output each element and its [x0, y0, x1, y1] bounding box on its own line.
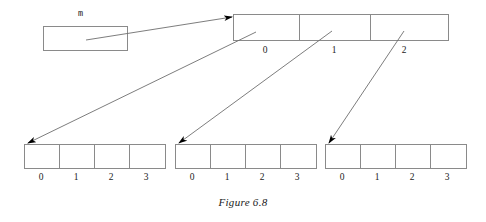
row-array-0-index-3: 3 [136, 172, 156, 183]
row-array-2-index-1: 1 [367, 172, 387, 183]
figure-canvas [0, 0, 486, 222]
row-array-1-index-3: 3 [287, 172, 307, 183]
row-array-0-group [25, 145, 166, 169]
top-array-index-0: 0 [255, 45, 275, 56]
row-array-1-index-2: 2 [252, 172, 272, 183]
row-array-2-index-0: 0 [332, 172, 352, 183]
pointer-variable-box [44, 27, 128, 51]
row-array-0-index-0: 0 [31, 172, 51, 183]
row-array-1-index-0: 0 [182, 172, 202, 183]
row-array-1-group [176, 145, 317, 169]
row-array-2-index-3: 3 [437, 172, 457, 183]
arrow-top-cell-0-to-row-array-0 [28, 32, 256, 143]
pointer-variable-label: m [78, 9, 83, 19]
row-array-0-index-1: 1 [66, 172, 86, 183]
top-array-index-1: 1 [324, 45, 344, 56]
row-array-0-index-2: 2 [101, 172, 121, 183]
row-array-2-group [326, 145, 467, 169]
row-array-1-index-1: 1 [217, 172, 237, 183]
row-array-2-index-2: 2 [402, 172, 422, 183]
top-array-outline [234, 15, 449, 41]
arrow-m-to-top-array [86, 17, 232, 40]
figure-caption: Figure 6.8 [0, 196, 486, 208]
pointer-variable-box-group [44, 27, 128, 51]
top-array-group [234, 15, 449, 41]
top-array-index-2: 2 [394, 45, 414, 56]
